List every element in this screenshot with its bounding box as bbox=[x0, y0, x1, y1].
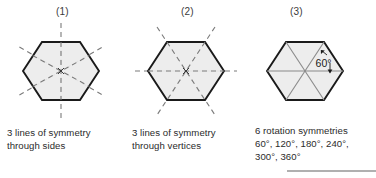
panel-2-caption: 3 lines of symmetry through vertices bbox=[132, 126, 216, 152]
figure-panel-3: (3) 60° bbox=[250, 0, 376, 178]
hexagon-reflection-through-sides bbox=[0, 22, 125, 120]
footer-horizontal-rule bbox=[287, 170, 376, 172]
figure-panel-1: (1) 3 lines of symmetry thro bbox=[0, 0, 125, 178]
hexagon-reflection-through-vertices bbox=[125, 22, 250, 120]
panel-2-label: (2) bbox=[125, 6, 250, 18]
hexagon-rotational-sectors: 60° bbox=[250, 22, 376, 120]
panel-1-label: (1) bbox=[0, 6, 125, 18]
panel-3-diagram: 60° bbox=[250, 22, 376, 120]
figure-panel-2: (2) 3 lines of symmetry through vertices bbox=[125, 0, 250, 178]
panel-3-label: (3) bbox=[250, 6, 376, 18]
panel-2-diagram bbox=[125, 22, 250, 120]
panel-1-diagram bbox=[0, 22, 125, 120]
angle-label-60: 60° bbox=[316, 57, 332, 69]
panel-3-caption: 6 rotation symmetries 60°, 120°, 180°, 2… bbox=[255, 124, 349, 164]
panel-1-caption: 3 lines of symmetry through sides bbox=[7, 126, 91, 152]
